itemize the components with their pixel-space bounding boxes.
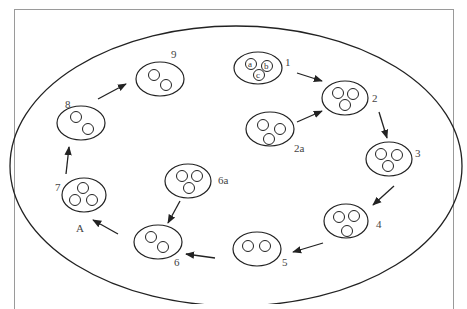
arrow-6a-6 [168,201,180,223]
stage-9: 9 [136,48,184,96]
arrow-3-4 [373,186,394,205]
annotation-A: A [76,222,84,234]
stage-label-3: 3 [415,147,421,159]
cell-label-c: c [256,70,260,80]
arrow-8-9 [98,84,126,99]
arrows [66,73,394,258]
stage-1: a b c 1 [234,52,291,84]
stage-label-1: 1 [285,56,291,68]
arrow-6-7 [93,220,118,234]
stage-6: 6 [134,225,182,268]
arrow-4-5 [293,243,323,252]
stage-label-9: 9 [171,48,177,60]
stage-label-7: 7 [55,181,61,193]
arrow-5-6 [186,254,215,258]
cell-label-b: b [264,61,269,71]
stage-label-5: 5 [282,256,288,268]
arrow-2-3 [379,112,387,138]
stage-2: 2 [322,81,378,115]
stage-5: 5 [233,232,288,268]
stage-label-2a: 2a [294,142,305,154]
stage-label-6a: 6a [218,174,229,186]
stage-label-6: 6 [174,256,180,268]
arrow-7-8 [66,147,69,174]
stage-label-2: 2 [372,92,378,104]
cell-label-a: a [248,59,252,69]
stage-label-4: 4 [376,218,382,230]
stage-8: 8 [57,98,105,140]
stage-6a: 6a [165,164,229,198]
arrow-1-2 [297,73,322,81]
stage-3: 3 [366,142,421,176]
stage-label-8: 8 [65,98,71,110]
outer-ellipse [10,26,462,304]
stage-4: 4 [324,204,382,238]
stage-2a: 2a [246,112,305,154]
arrow-2a-2 [297,111,322,122]
stage-7: 7 A [55,178,106,234]
